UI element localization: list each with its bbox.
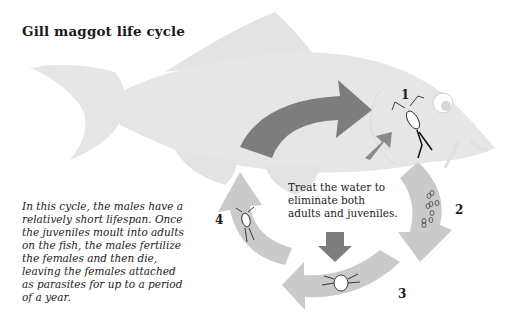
fish-silhouette (30, 12, 495, 195)
diagram-title: Gill maggot life cycle (22, 23, 185, 39)
cycle-arrow-2-icon (398, 162, 452, 262)
description-text: In this cycle, the males have a relative… (22, 200, 187, 304)
step-label-2: 2 (455, 203, 463, 217)
step-label-3: 3 (398, 287, 406, 301)
treatment-note: Treat the water to eliminate both adults… (288, 181, 400, 220)
step-label-1: 1 (401, 88, 409, 102)
treat-down-arrow-icon (318, 232, 352, 262)
step-label-4: 4 (215, 213, 223, 227)
